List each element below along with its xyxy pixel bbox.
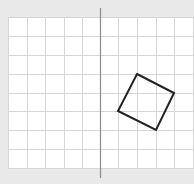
diagram-canvas xyxy=(0,0,194,184)
